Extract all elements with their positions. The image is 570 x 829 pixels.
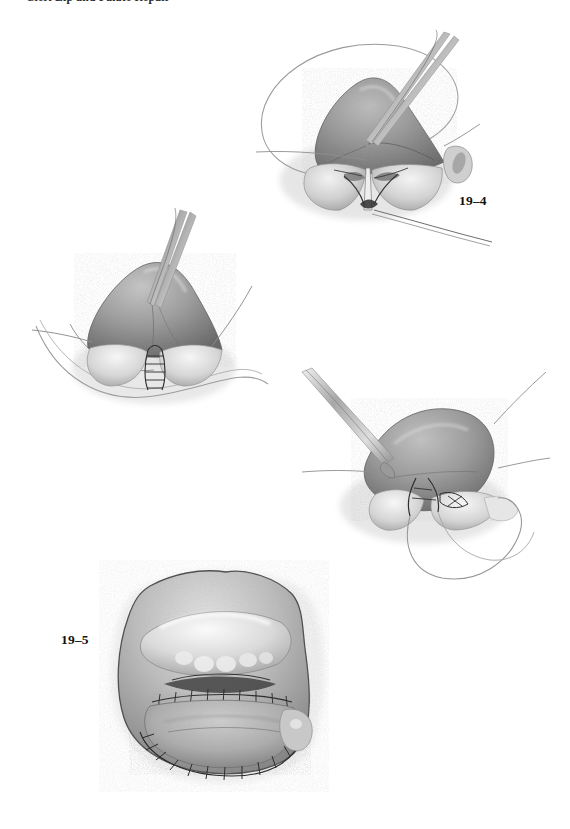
figure-19-4-illustration: [248, 28, 498, 248]
nasal-tip-stipple: [88, 262, 222, 357]
suture-tail-left: [302, 471, 372, 473]
lateral-bulge-highlight: [290, 719, 302, 729]
figure-19-5: 19–5: [30, 208, 280, 438]
retractor-shaft: [302, 368, 394, 466]
figure-19-5-illustration: [30, 208, 280, 438]
bump-4: [239, 653, 257, 667]
bump-1: [175, 651, 193, 665]
bump-2: [194, 656, 214, 672]
suture-tail-lower-right-b: [372, 214, 490, 246]
figure-19-7: 19–7: [80, 560, 345, 792]
figure-19-7-illustration: [80, 560, 345, 792]
bump-3: [216, 656, 236, 672]
suture-tail-right: [498, 458, 550, 468]
figure-19-4: 19–4: [248, 28, 498, 248]
suture-tail-upper-right: [494, 372, 546, 424]
bump-5: [259, 652, 273, 664]
suture-tail-upper-right: [444, 124, 480, 146]
running-header: Cleft Lip and Palate Repair: [26, 0, 326, 4]
figure-label-19-4: 19–4: [459, 193, 487, 209]
suture-tail-lower-right-a: [374, 210, 492, 242]
